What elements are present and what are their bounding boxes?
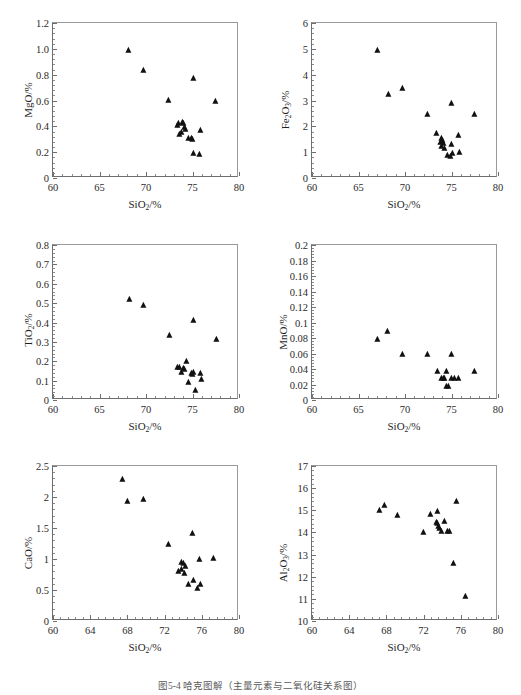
axis-title-y-tio2: TiO2/% <box>22 313 36 346</box>
y-tick-minor <box>53 365 55 366</box>
x-tick-minor <box>442 396 443 398</box>
y-tick-minor <box>53 59 55 60</box>
y-tick-minor <box>53 147 55 148</box>
x-tick-minor <box>461 396 462 398</box>
x-tick-minor <box>127 174 128 176</box>
x-tick <box>127 615 128 619</box>
x-tick-minor <box>379 617 380 619</box>
y-tick-minor <box>53 485 55 486</box>
y-tick <box>53 245 57 246</box>
y-tick-minor <box>312 341 314 342</box>
y-tick-minor <box>53 157 55 158</box>
data-point <box>456 149 462 155</box>
y-tick-label: 0.7 <box>11 259 49 270</box>
y-tick-minor <box>312 270 314 271</box>
data-point <box>463 593 469 599</box>
y-tick <box>312 354 316 355</box>
y-tick-minor <box>312 301 314 302</box>
y-tick-minor <box>312 137 314 138</box>
y-tick-minor <box>53 288 55 289</box>
data-point <box>471 367 477 373</box>
y-tick-minor <box>312 572 314 573</box>
x-tick-label: 68 <box>381 625 392 636</box>
data-point <box>448 351 454 357</box>
x-tick <box>90 615 91 619</box>
x-tick-minor <box>489 174 490 176</box>
y-tick-label: 0.4 <box>11 121 49 132</box>
axis-title-x-cao: SiO2/% <box>128 641 161 655</box>
y-tick-label: 0 <box>11 616 49 627</box>
axis-title-y-fe2o3: Fe2O3/% <box>279 91 293 130</box>
x-tick <box>405 394 406 398</box>
y-tick <box>312 261 316 262</box>
x-tick-minor <box>368 396 369 398</box>
y-tick-minor <box>53 373 55 374</box>
x-tick-minor <box>479 174 480 176</box>
y-tick <box>312 488 316 489</box>
data-point <box>441 517 447 523</box>
y-tick-minor <box>312 360 314 361</box>
y-tick <box>53 528 57 529</box>
y-tick-minor <box>312 357 314 358</box>
data-point <box>183 357 189 363</box>
y-tick-label: 5 <box>270 43 308 54</box>
y-tick <box>312 385 316 386</box>
data-point <box>197 581 203 587</box>
data-point <box>449 141 455 147</box>
y-tick-minor <box>53 516 55 517</box>
y-tick-minor <box>53 39 55 40</box>
y-tick-minor <box>53 33 55 34</box>
x-tick-label: 80 <box>493 182 504 193</box>
y-tick-label: 0.02 <box>270 379 308 390</box>
y-tick-label: 1 <box>270 147 308 158</box>
data-point <box>441 145 447 151</box>
x-tick-minor <box>453 617 454 619</box>
y-tick-minor <box>312 116 314 117</box>
x-tick-label: 80 <box>493 625 504 636</box>
y-tick-minor <box>53 121 55 122</box>
x-tick-minor <box>409 617 410 619</box>
x-tick-label: 76 <box>456 625 467 636</box>
data-point <box>182 125 188 131</box>
x-tick <box>424 615 425 619</box>
x-tick-minor <box>220 174 221 176</box>
x-tick-label: 60 <box>307 182 318 193</box>
x-tick-minor <box>165 396 166 398</box>
y-tick-minor <box>53 64 55 65</box>
x-tick-label: 60 <box>48 404 59 415</box>
x-tick-minor <box>202 174 203 176</box>
y-tick-minor <box>53 553 55 554</box>
data-point <box>185 378 191 384</box>
y-tick-label: 0.18 <box>270 255 308 266</box>
y-tick-minor <box>312 54 314 55</box>
x-tick-minor <box>334 617 335 619</box>
y-tick-minor <box>53 334 55 335</box>
x-tick <box>146 394 147 398</box>
y-tick-minor <box>312 335 314 336</box>
y-tick-minor <box>53 319 55 320</box>
x-tick <box>100 394 101 398</box>
y-tick-minor <box>312 106 314 107</box>
figure-caption: 图5-4 哈克图解（主量元素与二氧化硅关系图） <box>0 676 521 695</box>
x-tick-minor <box>340 396 341 398</box>
y-tick-minor <box>53 478 55 479</box>
y-tick-minor <box>312 147 314 148</box>
y-tick-label: 0.1 <box>11 375 49 386</box>
y-tick-minor <box>53 253 55 254</box>
y-tick-minor <box>312 121 314 122</box>
y-tick-minor <box>312 372 314 373</box>
x-tick-minor <box>109 174 110 176</box>
x-tick-minor <box>174 396 175 398</box>
y-tick <box>312 49 316 50</box>
axis-title-x-mgo: SiO2/% <box>128 198 161 212</box>
y-tick-minor <box>312 90 314 91</box>
y-tick <box>53 559 57 560</box>
y-tick-minor <box>312 475 314 476</box>
y-tick-minor <box>53 173 55 174</box>
x-tick-minor <box>211 174 212 176</box>
x-tick-label: 65 <box>353 182 364 193</box>
y-tick-minor <box>53 547 55 548</box>
x-tick-label: 75 <box>446 182 457 193</box>
y-tick <box>312 323 316 324</box>
x-tick-minor <box>224 617 225 619</box>
